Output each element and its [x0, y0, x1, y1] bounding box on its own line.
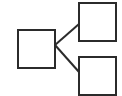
child-bottom-node-box — [79, 57, 116, 95]
edge-parent-to-top — [55, 24, 79, 45]
child-top-node-box — [79, 3, 116, 41]
edge-parent-to-bottom — [55, 45, 79, 72]
parent-node-box — [18, 30, 55, 68]
hierarchy-diagram-icon — [0, 0, 122, 96]
